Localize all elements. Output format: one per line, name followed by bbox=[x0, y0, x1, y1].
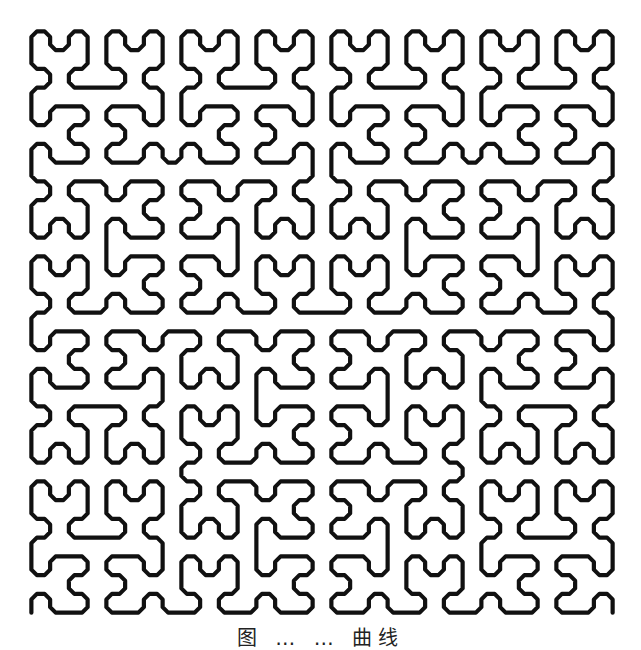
figure-caption: 图 … … 曲线 bbox=[0, 628, 641, 648]
